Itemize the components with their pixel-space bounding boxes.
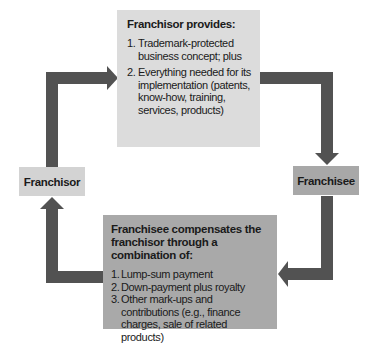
list-item: 1.Lump-sum payment bbox=[111, 268, 271, 281]
franchisor-provides-list: 1.Trademark-protected business concept; … bbox=[127, 37, 252, 116]
list-item: 3.Other mark-ups and contributions (e.g.… bbox=[111, 293, 271, 343]
franchisee-compensates-box: Franchisee compensates the franchisor th… bbox=[103, 215, 277, 329]
arrow-franchisor-to-top-box bbox=[46, 66, 118, 167]
franchisee-compensates-list: 1.Lump-sum payment 2.Down-payment plus r… bbox=[111, 268, 271, 343]
franchisor-label: Franchisor bbox=[24, 176, 80, 188]
arrow-top-box-to-franchisee bbox=[260, 72, 339, 165]
franchisee-label: Franchisee bbox=[297, 175, 355, 187]
franchisor-provides-title: Franchisor provides: bbox=[127, 18, 252, 31]
franchisee-compensates-title: Franchisee compensates the franchisor th… bbox=[111, 223, 271, 262]
list-item: 2.Down-payment plus royalty bbox=[111, 281, 271, 294]
arrow-bottom-box-to-franchisor bbox=[40, 197, 104, 283]
arrow-franchisee-to-bottom-box bbox=[278, 196, 333, 287]
franchisor-node: Franchisor bbox=[19, 167, 85, 196]
franchisee-node: Franchisee bbox=[293, 166, 359, 195]
franchisor-provides-box: Franchisor provides: 1.Trademark-protect… bbox=[117, 10, 260, 147]
list-item: 2.Everything needed for its implementati… bbox=[127, 66, 252, 116]
list-item: 1.Trademark-protected business concept; … bbox=[127, 37, 252, 62]
